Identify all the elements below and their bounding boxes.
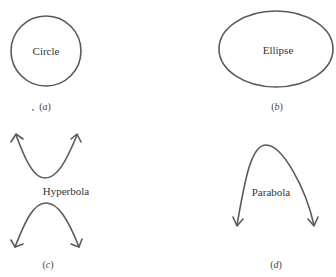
panel-hyperbola: Hyperbola (c) <box>11 134 89 271</box>
caption-a: (a) <box>39 101 51 113</box>
caption-b: (b) <box>271 101 283 113</box>
panel-parabola: Parabola (d) <box>233 145 318 271</box>
parabola-shape <box>237 145 314 225</box>
caption-c: (c) <box>42 259 53 271</box>
caption-d: (d) <box>270 259 282 271</box>
stray-dot <box>32 109 34 111</box>
parabola-label: Parabola <box>252 186 291 198</box>
circle-label: Circle <box>33 45 60 57</box>
ellipse-label: Ellipse <box>263 44 294 56</box>
hyperbola-upper-branch <box>16 135 77 178</box>
panel-ellipse: Ellipse (b) <box>219 11 333 113</box>
panel-circle: Circle (a) <box>11 16 81 113</box>
hyperbola-label: Hyperbola <box>43 185 90 197</box>
hyperbola-lower-branch <box>15 203 79 247</box>
conic-sections-figure: Circle (a) Ellipse (b) Hyperbola (c) Par… <box>0 0 336 277</box>
